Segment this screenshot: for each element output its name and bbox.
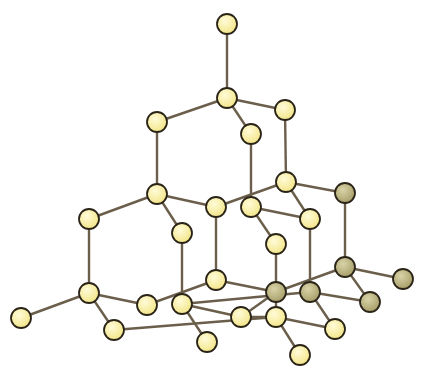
atom-light xyxy=(241,124,261,144)
atom-light xyxy=(241,197,261,217)
atom-light xyxy=(147,112,167,132)
atom-light xyxy=(172,223,192,243)
diamond-lattice-diagram xyxy=(0,0,429,382)
atom-light xyxy=(275,100,295,120)
atom-light xyxy=(266,307,286,327)
bond xyxy=(182,292,310,304)
atom-light xyxy=(266,234,286,254)
atom-light xyxy=(147,184,167,204)
atom-light xyxy=(79,209,99,229)
atom-light xyxy=(172,294,192,314)
atom-light xyxy=(197,332,217,352)
atom-light xyxy=(325,319,345,339)
atom-light xyxy=(206,270,226,290)
atom-light xyxy=(206,197,226,217)
atom-light xyxy=(11,308,31,328)
atom-light xyxy=(217,88,237,108)
atom-light xyxy=(79,283,99,303)
atom-layer xyxy=(11,14,413,365)
atom-dark xyxy=(266,282,286,302)
atom-dark xyxy=(335,183,355,203)
atom-light xyxy=(231,307,251,327)
atom-dark xyxy=(335,257,355,277)
atom-light xyxy=(217,14,237,34)
atom-dark xyxy=(360,292,380,312)
atom-dark xyxy=(393,269,413,289)
atom-light xyxy=(290,345,310,365)
lattice-canvas xyxy=(0,0,429,382)
atom-light xyxy=(137,295,157,315)
atom-light xyxy=(276,172,296,192)
bond xyxy=(157,98,227,122)
atom-light xyxy=(300,209,320,229)
atom-dark xyxy=(300,282,320,302)
atom-light xyxy=(104,320,124,340)
